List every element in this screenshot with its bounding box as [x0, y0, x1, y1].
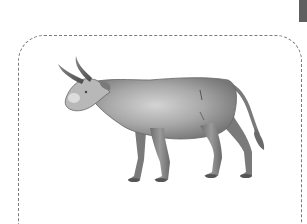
bull-illustration-icon — [0, 0, 307, 224]
hooves — [128, 174, 252, 182]
muzzle — [68, 93, 80, 103]
eye — [85, 91, 87, 93]
